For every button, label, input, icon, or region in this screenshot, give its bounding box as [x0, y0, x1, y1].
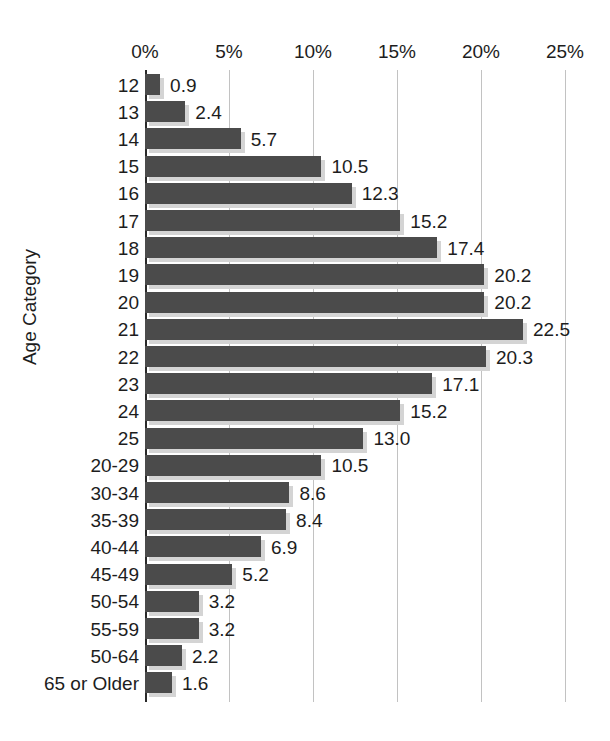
bar-value-label: 6.9 [271, 537, 297, 559]
bar-row[interactable]: 55-593.2 [145, 616, 565, 643]
bar[interactable] [145, 128, 241, 149]
bar-value-label: 22.5 [533, 319, 570, 341]
x-tick-label-1: 5% [215, 41, 242, 63]
bar-value-label: 17.4 [447, 238, 484, 260]
category-label: 21 [118, 319, 139, 341]
clipped-title-strip [0, 0, 610, 5]
bar[interactable] [145, 237, 437, 258]
x-tick-label-4: 20% [462, 41, 500, 63]
bar-value-label: 20.2 [494, 265, 531, 287]
category-label: 13 [118, 102, 139, 124]
bar[interactable] [145, 346, 486, 367]
bar-value-label: 0.9 [170, 75, 196, 97]
category-label: 20-29 [90, 455, 139, 477]
bar-row[interactable]: 2513.0 [145, 426, 565, 453]
bar[interactable] [145, 428, 363, 449]
bar[interactable] [145, 373, 432, 394]
bar-row[interactable]: 2415.2 [145, 398, 565, 425]
bar-value-label: 3.2 [209, 619, 235, 641]
bar[interactable] [145, 536, 261, 557]
bar[interactable] [145, 672, 172, 693]
category-label: 65 or Older [44, 673, 139, 695]
bar[interactable] [145, 101, 185, 122]
bar[interactable] [145, 210, 400, 231]
bar[interactable] [145, 264, 484, 285]
bar[interactable] [145, 455, 321, 476]
category-label: 16 [118, 183, 139, 205]
gridline-25% [565, 70, 566, 702]
category-label: 50-64 [90, 646, 139, 668]
category-label: 45-49 [90, 564, 139, 586]
bar-value-label: 2.2 [192, 646, 218, 668]
bar-row[interactable]: 120.9 [145, 72, 565, 99]
y-axis-title: Age Category [19, 217, 41, 397]
bar-row[interactable]: 1612.3 [145, 181, 565, 208]
bar-row[interactable]: 35-398.4 [145, 507, 565, 534]
category-label: 14 [118, 129, 139, 151]
bar-row[interactable]: 45-495.2 [145, 562, 565, 589]
bar-value-label: 8.4 [296, 510, 322, 532]
bar[interactable] [145, 509, 286, 530]
bar-value-label: 10.5 [331, 455, 368, 477]
bar-value-label: 15.2 [410, 401, 447, 423]
bar[interactable] [145, 292, 484, 313]
bar-value-label: 8.6 [299, 483, 325, 505]
bar-value-label: 2.4 [195, 102, 221, 124]
category-label: 19 [118, 265, 139, 287]
bar-value-label: 17.1 [442, 374, 479, 396]
bar-row[interactable]: 1510.5 [145, 154, 565, 181]
category-label: 30-34 [90, 483, 139, 505]
category-label: 24 [118, 401, 139, 423]
x-tick-label-0: 0% [131, 41, 158, 63]
bar-value-label: 1.6 [182, 673, 208, 695]
bar-value-label: 15.2 [410, 211, 447, 233]
category-label: 25 [118, 428, 139, 450]
category-label: 50-54 [90, 591, 139, 613]
bar[interactable] [145, 74, 160, 95]
bar-value-label: 12.3 [362, 183, 399, 205]
category-label: 40-44 [90, 537, 139, 559]
category-label: 15 [118, 156, 139, 178]
bar[interactable] [145, 564, 232, 585]
bar-row[interactable]: 50-543.2 [145, 589, 565, 616]
bar[interactable] [145, 645, 182, 666]
category-label: 23 [118, 374, 139, 396]
x-tick-label-5: 25% [546, 41, 584, 63]
bar-value-label: 13.0 [373, 428, 410, 450]
bar-row[interactable]: 2122.5 [145, 317, 565, 344]
bar-row[interactable]: 40-446.9 [145, 534, 565, 561]
bar-row[interactable]: 132.4 [145, 99, 565, 126]
category-label: 22 [118, 347, 139, 369]
bar-value-label: 5.2 [242, 564, 268, 586]
bar-row[interactable]: 1920.2 [145, 262, 565, 289]
bar-value-label: 5.7 [251, 129, 277, 151]
bar-row[interactable]: 2020.2 [145, 290, 565, 317]
bar-row[interactable]: 145.7 [145, 126, 565, 153]
bar[interactable] [145, 591, 199, 612]
x-tick-label-3: 15% [378, 41, 416, 63]
bar-row[interactable]: 2317.1 [145, 371, 565, 398]
bar-row[interactable]: 50-642.2 [145, 643, 565, 670]
category-label: 55-59 [90, 619, 139, 641]
bar[interactable] [145, 482, 289, 503]
bar-row[interactable]: 1817.4 [145, 235, 565, 262]
bar-row[interactable]: 30-348.6 [145, 480, 565, 507]
bar-chart: 0%5%10%15%20%25% Age Category 120.9132.4… [0, 0, 610, 741]
bar-value-label: 10.5 [331, 156, 368, 178]
bar-row[interactable]: 20-2910.5 [145, 453, 565, 480]
bar[interactable] [145, 319, 523, 340]
bar-row[interactable]: 2220.3 [145, 344, 565, 371]
category-label: 12 [118, 75, 139, 97]
category-label: 20 [118, 292, 139, 314]
bar-row[interactable]: 65 or Older1.6 [145, 670, 565, 697]
bar-value-label: 3.2 [209, 591, 235, 613]
plot-area: 120.9132.4145.71510.51612.31715.21817.41… [145, 70, 565, 702]
bar[interactable] [145, 618, 199, 639]
bar-value-label: 20.2 [494, 292, 531, 314]
category-label: 18 [118, 238, 139, 260]
bar[interactable] [145, 400, 400, 421]
category-label: 17 [118, 211, 139, 233]
bar-row[interactable]: 1715.2 [145, 208, 565, 235]
bar[interactable] [145, 156, 321, 177]
bar[interactable] [145, 183, 352, 204]
